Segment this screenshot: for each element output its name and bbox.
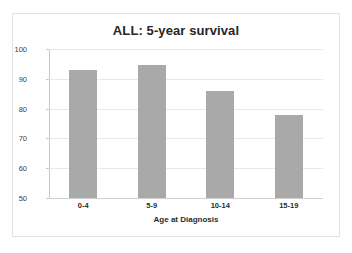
y-tick-label-70: 70	[0, 134, 27, 143]
y-tick-mark-100	[46, 49, 49, 50]
y-tick-mark-60	[46, 168, 49, 169]
bar-5-9	[138, 65, 166, 198]
gridline-100	[49, 49, 323, 50]
y-tick-label-60: 60	[0, 164, 27, 173]
y-tick-mark-70	[46, 138, 49, 139]
x-tick-label-15-19: 15-19	[259, 201, 319, 210]
x-tick-label-5-9: 5-9	[122, 201, 182, 210]
chart-frame: ALL: 5-year survival Percent 5-year surv…	[12, 13, 340, 237]
y-tick-label-50: 50	[0, 194, 27, 203]
x-tick-label-0-4: 0-4	[53, 201, 113, 210]
x-axis-title: Age at Diagnosis	[49, 215, 323, 224]
y-tick-mark-50	[46, 198, 49, 199]
y-tick-label-90: 90	[0, 74, 27, 83]
bar-0-4	[69, 70, 97, 198]
y-tick-label-100: 100	[0, 45, 27, 54]
x-tick-label-10-14: 10-14	[190, 201, 250, 210]
y-tick-label-80: 80	[0, 104, 27, 113]
chart-figure: ALL: 5-year survival Percent 5-year surv…	[0, 0, 352, 253]
bar-15-19	[275, 115, 303, 198]
gridline-50	[49, 198, 323, 199]
plot-area: Age at Diagnosis 0-45-910-1415-19	[49, 49, 323, 198]
bar-10-14	[206, 91, 234, 198]
y-tick-mark-90	[46, 79, 49, 80]
y-tick-mark-80	[46, 109, 49, 110]
chart-title: ALL: 5-year survival	[13, 23, 339, 38]
